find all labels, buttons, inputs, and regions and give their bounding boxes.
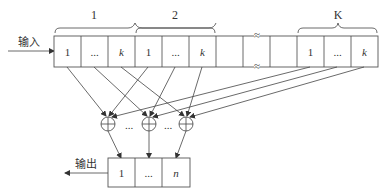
g2-cell-1: 1 bbox=[146, 46, 152, 58]
gK-cell-1: 1 bbox=[308, 46, 314, 58]
group-label-2: 2 bbox=[172, 8, 178, 22]
g1-cell-1: 1 bbox=[65, 46, 71, 58]
connection-lines bbox=[67, 67, 364, 117]
adder-1 bbox=[101, 117, 115, 131]
adder-3 bbox=[179, 117, 193, 131]
group-brace-2 bbox=[136, 23, 216, 33]
output-connections bbox=[108, 131, 186, 158]
group-label-1: 1 bbox=[91, 8, 97, 22]
shift-register-diagram: 1 2 K 输入 ≈ ≈ 1 ... k 1 ... k 1 ... k bbox=[0, 0, 385, 195]
gK-cell-2: ... bbox=[333, 46, 342, 58]
group-brace-K bbox=[298, 23, 377, 33]
g2-cell-2: ... bbox=[171, 46, 180, 58]
input-label: 输入 bbox=[18, 35, 40, 48]
output-label: 输出 bbox=[75, 157, 97, 170]
break-mark-bottom: ≈ bbox=[254, 60, 260, 72]
g1-cell-2: ... bbox=[90, 46, 99, 58]
out-cell-1: 1 bbox=[119, 167, 125, 179]
group-label-K: K bbox=[334, 8, 343, 22]
adder-ellipsis-2: ... bbox=[164, 119, 173, 131]
input-register bbox=[54, 33, 378, 70]
break-mark-top: ≈ bbox=[254, 29, 260, 41]
adder-ellipsis-1: ... bbox=[125, 119, 134, 131]
adder-2 bbox=[142, 117, 156, 131]
out-cell-3: n bbox=[173, 167, 179, 179]
out-cell-2: ... bbox=[144, 167, 153, 179]
